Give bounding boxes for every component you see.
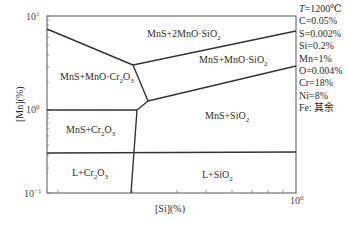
blurred-caption bbox=[60, 212, 270, 220]
y-ticks bbox=[47, 16, 51, 193]
condition-item: S=0.002% bbox=[299, 28, 343, 40]
condition-item: Cr=18% bbox=[299, 77, 343, 89]
condition-temperature: T=1200℃ bbox=[299, 3, 343, 15]
conditions-legend: T=1200℃ C=0.05% S=0.002% Si=0.2% Mn=1% O… bbox=[299, 3, 343, 115]
region-l-cr2o3: L+Cr2O3 bbox=[72, 167, 108, 181]
condition-item: Si=0.2% bbox=[299, 40, 343, 52]
condition-item: Mn=1% bbox=[299, 53, 343, 65]
condition-item: C=0.05% bbox=[299, 15, 343, 27]
region-mns-cr2o3: MnS+Cr2O3 bbox=[66, 124, 116, 138]
condition-item: O=0.004% bbox=[299, 65, 343, 77]
condition-item: Ni=8% bbox=[299, 90, 343, 102]
phase-diagram: 101 100 10−1 100 [Si](%) [Mn](%) MnS+2Mn… bbox=[0, 0, 350, 230]
condition-item: Fe: 其余 bbox=[299, 102, 343, 114]
y-tick-10-0: 100 bbox=[26, 103, 40, 115]
y-axis-label: [Mn](%) bbox=[14, 86, 26, 122]
region-l-sio2: L+SiO2 bbox=[202, 169, 233, 183]
y-tick-10-1: 101 bbox=[26, 10, 40, 22]
x-tick-10-0: 100 bbox=[290, 194, 304, 206]
region-mns-2mno-sio2: MnS+2MnO·SiO2 bbox=[147, 28, 221, 42]
region-mns-mno-cr2o3: MnS+MnO·Cr2O3 bbox=[60, 71, 134, 85]
y-tick-10-minus1: 10−1 bbox=[24, 187, 42, 199]
region-mns-sio2: MnS+SiO2 bbox=[205, 110, 250, 124]
region-mns-mno-sio2: MnS+MnO·SiO2 bbox=[199, 54, 268, 68]
